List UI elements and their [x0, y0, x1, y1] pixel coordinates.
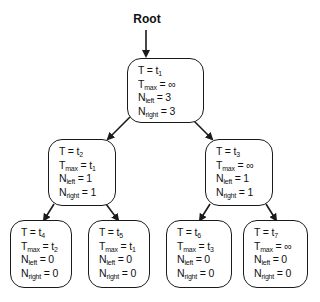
node-nright-line: Nright = 3	[138, 105, 203, 119]
edge-n2-to-n4	[44, 204, 54, 220]
node-tmax-line: Tmax = t1	[59, 159, 115, 173]
tree-node-leaf-1: T = t4 Tmax = t2 Nleft = 0 Nright = 0	[10, 220, 72, 288]
node-nright-line: Nright = 0	[254, 267, 307, 281]
node-nleft-line: Nleft = 0	[254, 253, 307, 267]
node-nleft-line: Nleft = 1	[216, 172, 272, 186]
node-nleft-line: Nleft = 0	[177, 253, 231, 267]
node-tmax-line: Tmax = ∞	[138, 78, 203, 92]
tree-node-leaf-2: T = t5 Tmax = t1 Nleft = 0 Nright = 0	[88, 220, 150, 288]
node-nright-line: Nright = 1	[216, 186, 272, 200]
node-nleft-line: Nleft = 0	[21, 253, 71, 267]
tree-node-leaf-3: T = t6 Tmax = t3 Nleft = 0 Nright = 0	[166, 220, 232, 288]
node-nleft-line: Nleft = 3	[138, 91, 203, 105]
node-t-line: T = t4	[21, 226, 71, 240]
node-t-line: T = t7	[254, 226, 307, 240]
node-nright-line: Nright = 1	[59, 186, 115, 200]
edge-n1-to-n2	[108, 117, 130, 139]
node-tmax-line: Tmax = t3	[177, 240, 231, 254]
node-t-line: T = t2	[59, 145, 115, 159]
node-tmax-line: Tmax = t2	[21, 240, 71, 254]
tree-node-leaf-4: T = t7 Tmax = ∞ Nleft = 0 Nright = 0	[243, 220, 308, 288]
node-tmax-line: Tmax = ∞	[254, 240, 307, 254]
edge-n3-to-n7	[266, 204, 276, 220]
tree-node-root: T = t1 Tmax = ∞ Nleft = 3 Nright = 3	[127, 58, 204, 123]
edge-n2-to-n5	[106, 204, 118, 220]
node-t-line: T = t1	[138, 64, 203, 78]
node-t-line: T = t3	[216, 145, 272, 159]
node-nright-line: Nright = 0	[99, 267, 149, 281]
node-nleft-line: Nleft = 0	[99, 253, 149, 267]
node-tmax-line: Tmax = t1	[99, 240, 149, 254]
tree-node-left-child: T = t2 Tmax = t1 Nleft = 1 Nright = 1	[48, 139, 116, 206]
node-t-line: T = t6	[177, 226, 231, 240]
node-nright-line: Nright = 0	[21, 267, 71, 281]
node-tmax-line: Tmax = ∞	[216, 159, 272, 173]
root-label: Root	[127, 12, 167, 26]
tree-node-right-child: T = t3 Tmax = ∞ Nleft = 1 Nright = 1	[205, 139, 273, 206]
edge-n3-to-n6	[200, 204, 210, 220]
node-nright-line: Nright = 0	[177, 267, 231, 281]
node-t-line: T = t5	[99, 226, 149, 240]
node-nleft-line: Nleft = 1	[59, 172, 115, 186]
